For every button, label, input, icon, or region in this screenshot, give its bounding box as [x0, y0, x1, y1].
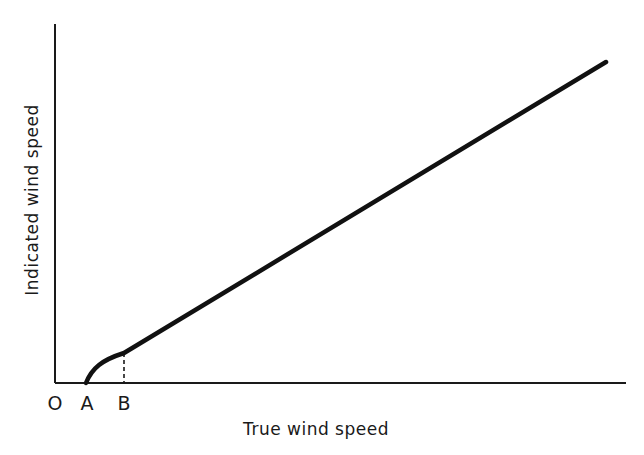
a-label: A — [81, 392, 94, 414]
y-axis-title: Indicated wind speed — [22, 104, 42, 295]
b-label: B — [117, 392, 130, 414]
x-axis-title: True wind speed — [242, 419, 389, 439]
response-curve — [86, 62, 606, 383]
chart: O A B True wind speed Indicated wind spe… — [0, 0, 644, 455]
origin-label: O — [48, 392, 63, 414]
